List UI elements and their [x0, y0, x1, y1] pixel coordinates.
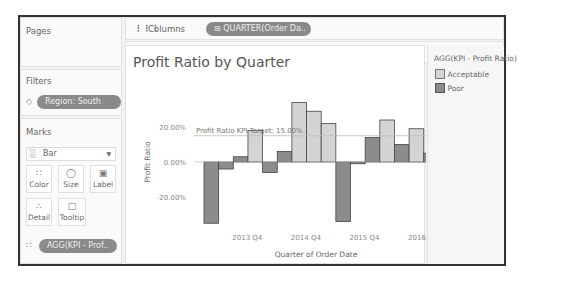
bar-2015-Q4[interactable] — [365, 138, 380, 163]
detail-card[interactable]: ∴ Detail — [26, 198, 52, 226]
mark-type-dropdown[interactable]: ░ Bar ▼ — [26, 147, 116, 161]
mark-type-value: Bar — [43, 149, 57, 158]
legend-item-poor[interactable]: Poor — [435, 83, 464, 93]
bar-2014-Q1[interactable] — [263, 162, 278, 173]
x-tick-label: 2013 Q4 — [232, 234, 263, 242]
reference-line-label: Profit Ratio KPI Target: 15.00% — [196, 127, 303, 135]
bar-2015-Q1[interactable] — [321, 124, 336, 163]
y-axis-title: Profit Ratio — [143, 141, 152, 183]
size-icon: ◯ — [59, 166, 83, 180]
bars — [204, 103, 426, 224]
color-pill-kpi[interactable]: AGG(KPI - Prof.. — [39, 239, 117, 253]
pages-label: Pages — [26, 26, 51, 36]
chart-view: Profit Ratio by Quarter Profit Ratio KPI… — [125, 45, 425, 264]
marks-label: Marks — [26, 127, 51, 137]
legend-title: AGG(KPI - Profit Ratio) — [434, 54, 517, 63]
bar-2016-Q2[interactable] — [394, 145, 409, 163]
detail-icon: ∴ — [27, 199, 51, 213]
bar-2015-Q2[interactable] — [336, 162, 351, 222]
filters-shelf[interactable]: Filters ◇ Region: South — [20, 69, 122, 116]
columns-shelf[interactable]: ⋮⋮⋮ Columns ⊞ QUARTER(Order Da.. — [125, 17, 504, 40]
x-axis-title: Quarter of Order Date — [275, 250, 358, 259]
color-dots-icon: ∷ — [27, 166, 51, 180]
size-card[interactable]: ◯ Size — [58, 165, 84, 193]
bar-2016-Q3[interactable] — [409, 129, 424, 162]
filter-icon: ◇ — [26, 97, 32, 106]
label-card[interactable]: ▣ Label — [90, 165, 116, 193]
color-legend: AGG(KPI - Profit Ratio) Acceptable Poor — [427, 45, 504, 264]
bar-2014-Q2[interactable] — [277, 152, 292, 163]
color-dots-icon: ∷ — [26, 240, 32, 250]
y-tick-label: -20.00% — [157, 194, 187, 202]
swatch-acceptable — [435, 69, 445, 79]
bar-chart: Profit Ratio KPI Target: 15.00%20.00%0.0… — [126, 46, 426, 265]
chevron-down-icon: ▼ — [106, 150, 111, 157]
bar-2013-Q4[interactable] — [248, 131, 263, 163]
swatch-poor — [435, 83, 445, 93]
bar-chart-icon: ░ — [30, 149, 36, 158]
bar-2013-Q2[interactable] — [219, 162, 234, 169]
x-tick-label: 2014 Q4 — [291, 234, 322, 242]
columns-pill[interactable]: ⊞ QUARTER(Order Da.. — [206, 22, 311, 36]
x-tick-label: 2016 Q4 — [408, 234, 426, 242]
bar-2016-Q4[interactable] — [424, 153, 426, 162]
tooltip-icon: □ — [59, 199, 85, 213]
label-icon: ▣ — [91, 166, 115, 180]
filter-pill-region[interactable]: Region: South — [37, 95, 121, 109]
pages-shelf[interactable]: Pages — [20, 17, 122, 67]
color-card[interactable]: ∷ Color — [26, 165, 52, 193]
bar-2014-Q4[interactable] — [307, 111, 322, 162]
tooltip-card[interactable]: □ Tooltip — [58, 198, 86, 226]
marks-card: Marks ░ Bar ▼ ∷ Color ◯ Size ▣ Label ∴ D… — [20, 118, 122, 264]
y-tick-label: 20.00% — [159, 124, 186, 132]
expand-icon: ⊞ — [214, 24, 223, 33]
bar-2016-Q1[interactable] — [380, 120, 395, 162]
bar-2013-Q1[interactable] — [204, 162, 219, 223]
x-tick-label: 2015 Q4 — [349, 234, 380, 242]
legend-item-acceptable[interactable]: Acceptable — [435, 69, 489, 79]
bar-2013-Q3[interactable] — [233, 157, 248, 162]
filters-label: Filters — [26, 76, 51, 86]
columns-label: Columns — [148, 24, 185, 34]
y-tick-label: 0.00% — [164, 159, 187, 167]
